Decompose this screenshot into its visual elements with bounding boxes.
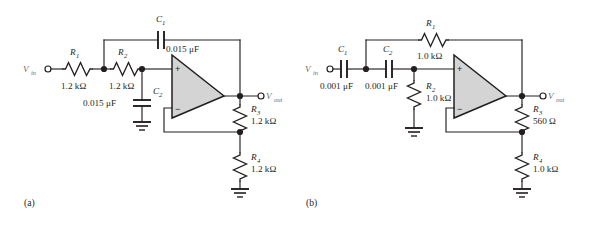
value-r1-b: 1.0 kΩ [417, 51, 442, 61]
input-label-b: V [305, 64, 312, 74]
label-r4-sub-a: 4 [257, 157, 261, 164]
value-r2-a: 1.2 kΩ [109, 81, 134, 91]
label-c1-sub-a: 1 [162, 19, 165, 26]
resistor-r2-a [110, 63, 141, 76]
resistor-r4-b [516, 152, 529, 182]
output-terminal-a[interactable] [258, 93, 264, 99]
output-terminal-b[interactable] [540, 93, 546, 99]
resistor-r1-a [62, 63, 93, 76]
value-r4-a: 1.2 kΩ [251, 164, 276, 174]
panel-caption-b: (b) [306, 197, 317, 209]
circuit-panel-a: + − V in V out R 1 1.2 kΩ R 2 1.2 kΩ C 1… [23, 14, 283, 209]
resistor-r3-a [234, 104, 247, 132]
input-label-sub-a: in [31, 69, 37, 76]
label-r4-sub-b: 4 [539, 157, 543, 164]
value-r3-b: 560 Ω [533, 116, 556, 126]
input-terminal-b[interactable] [327, 66, 333, 72]
value-c2-b: 0.001 μF [365, 81, 398, 91]
label-r1-sub-a: 1 [76, 52, 79, 59]
label-r3-b: R [532, 104, 539, 114]
label-r2-a: R [117, 47, 124, 57]
label-r4-a: R [250, 152, 257, 162]
output-label-b: V [548, 91, 555, 101]
resistor-r2-b [408, 80, 421, 110]
label-r3-sub-a: 3 [256, 109, 261, 116]
label-r2-sub-b: 2 [432, 86, 436, 93]
input-label-sub-b: in [313, 69, 319, 76]
label-c1-sub-b: 1 [344, 49, 347, 56]
resistor-r4-a [234, 152, 247, 182]
value-c1-a: 0.015 μF [166, 44, 199, 54]
circuit-figure: + − V in V out R 1 1.2 kΩ R 2 1.2 kΩ C 1… [0, 0, 590, 226]
value-r4-b: 1.0 kΩ [533, 164, 558, 174]
opamp-plus-sign-a: + [175, 64, 180, 74]
label-c2-sub-a: 2 [159, 91, 163, 98]
label-c2-sub-b: 2 [389, 49, 393, 56]
panel-caption-a: (a) [24, 197, 35, 209]
label-r2-b: R [425, 81, 432, 91]
label-r1-a: R [69, 47, 76, 57]
output-label-sub-b: out [556, 96, 565, 103]
input-label-a: V [23, 64, 30, 74]
label-r4-b: R [532, 152, 539, 162]
resistor-r3-b [516, 104, 529, 132]
output-label-sub-a: out [274, 96, 283, 103]
label-r2-sub-a: 2 [124, 52, 128, 59]
value-r2-b: 1.0 kΩ [426, 93, 451, 103]
circuit-panel-b: + − V in V out C 1 0.001 μF C 2 0.001 μF… [305, 18, 565, 209]
resistor-r1-b [418, 34, 449, 47]
label-r1-sub-b: 1 [432, 23, 435, 30]
schematic-canvas: + − V in V out R 1 1.2 kΩ R 2 1.2 kΩ C 1… [0, 0, 590, 226]
label-r3-sub-b: 3 [538, 109, 543, 116]
opamp-minus-sign-a: − [175, 104, 180, 114]
value-c2-a: 0.015 μF [83, 98, 116, 108]
value-r3-a: 1.2 kΩ [251, 116, 276, 126]
opamp-plus-sign-b: + [457, 64, 462, 74]
label-r3-a: R [250, 104, 257, 114]
label-r1-b: R [425, 18, 432, 28]
output-label-a: V [266, 91, 273, 101]
input-terminal-a[interactable] [45, 66, 51, 72]
value-r1-a: 1.2 kΩ [61, 81, 86, 91]
opamp-minus-sign-b: − [457, 104, 462, 114]
value-c1-b: 0.001 μF [320, 81, 353, 91]
